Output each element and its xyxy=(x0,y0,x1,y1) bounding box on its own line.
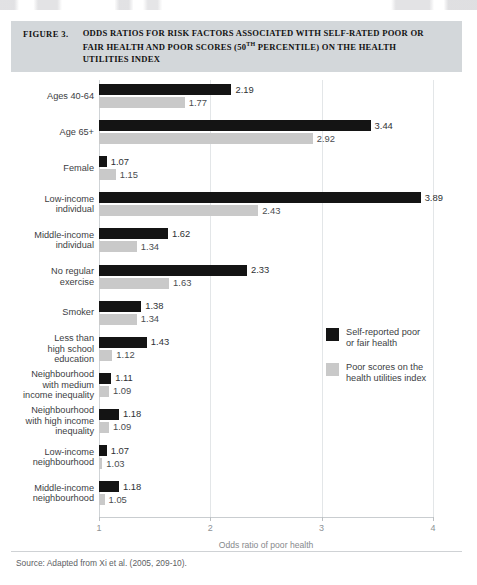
bar-poor-scores xyxy=(99,458,102,469)
category-label: Neighbourhoodwith high incomeinequality xyxy=(0,405,94,436)
bar-value-label: 1.11 xyxy=(115,372,133,383)
bar-value-label: 1.05 xyxy=(109,494,127,505)
bar-value-label: 1.62 xyxy=(172,228,190,239)
category-label-line: No regular xyxy=(0,266,94,276)
bar-group: Ages 40-642.191.77 xyxy=(0,84,477,108)
category-label-line: Smoker xyxy=(0,307,94,317)
bar-value-label: 2.19 xyxy=(235,84,253,95)
x-axis-line xyxy=(99,517,433,518)
category-label-line: individual xyxy=(0,240,94,250)
scan-artifact-strip xyxy=(0,0,477,10)
category-label-line: inequality xyxy=(0,426,94,436)
category-label-line: high school xyxy=(0,344,94,354)
legend-swatch-light-icon xyxy=(326,363,339,376)
bar-poor-scores xyxy=(99,350,112,361)
x-tick-mark xyxy=(322,517,323,521)
bar-value-label: 1.03 xyxy=(106,458,124,469)
category-label-line: Low-income xyxy=(0,447,94,457)
category-label: Smoker xyxy=(0,307,94,317)
bar-value-label: 1.63 xyxy=(173,277,191,288)
legend-label-line: Poor scores on the xyxy=(346,362,426,373)
category-label: Low-incomeneighbourhood xyxy=(0,447,94,468)
bar-group: Low-incomeneighbourhood1.071.03 xyxy=(0,445,477,469)
chart-plot-area: 1234 Odds ratio of poor health Ages 40-6… xyxy=(0,80,477,545)
category-label-line: income inequality xyxy=(0,390,94,400)
category-label: Less thanhigh schooleducation xyxy=(0,333,94,364)
bar-self-reported xyxy=(99,84,231,95)
bar-self-reported xyxy=(99,228,168,239)
figure-title-line-3: UTILITIES INDEX xyxy=(83,54,161,64)
bar-poor-scores xyxy=(99,205,258,216)
bar-self-reported xyxy=(99,373,111,384)
category-label-line: Middle-income xyxy=(0,483,94,493)
category-label-line: Neighbourhood xyxy=(0,369,94,379)
legend-item-poor-scores: Poor scores on the health utilities inde… xyxy=(326,362,471,384)
category-label-line: with medium xyxy=(0,380,94,390)
category-label-line: exercise xyxy=(0,277,94,287)
bar-poor-scores xyxy=(99,422,109,433)
bar-value-label: 1.07 xyxy=(111,156,129,167)
bar-self-reported xyxy=(99,481,119,492)
bar-group: Female1.071.15 xyxy=(0,156,477,180)
bar-poor-scores xyxy=(99,241,137,252)
bar-poor-scores xyxy=(99,169,116,180)
bar-value-label: 1.12 xyxy=(116,349,134,360)
category-label-line: Neighbourhood xyxy=(0,405,94,415)
bar-poor-scores xyxy=(99,494,105,505)
bar-value-label: 1.43 xyxy=(151,336,169,347)
bar-self-reported xyxy=(99,409,119,420)
bar-value-label: 1.09 xyxy=(113,421,131,432)
x-tick-label: 3 xyxy=(319,523,324,533)
category-label: Age 65+ xyxy=(0,127,94,137)
bar-group: Middle-incomeindividual1.621.34 xyxy=(0,228,477,252)
legend-swatch-dark-icon xyxy=(326,328,339,341)
category-label: No regularexercise xyxy=(0,266,94,287)
category-label: Middle-incomeneighbourhood xyxy=(0,483,94,504)
category-label-line: Middle-income xyxy=(0,230,94,240)
category-label: Low-incomeindividual xyxy=(0,194,94,215)
figure-number: FIGURE 3. xyxy=(23,28,69,39)
bar-poor-scores xyxy=(99,97,185,108)
bar-self-reported xyxy=(99,301,141,312)
bar-self-reported xyxy=(99,192,421,203)
x-tick-label: 2 xyxy=(208,523,213,533)
bar-poor-scores xyxy=(99,386,109,397)
source-note: Source: Adapted from Xi et al. (2005, 20… xyxy=(16,558,187,568)
category-label-line: with high income xyxy=(0,416,94,426)
category-label-line: neighbourhood xyxy=(0,457,94,467)
category-label: Middle-incomeindividual xyxy=(0,230,94,251)
category-label-line: Ages 40-64 xyxy=(0,91,94,101)
category-label: Neighbourhoodwith mediumincome inequalit… xyxy=(0,369,94,400)
legend-item-self-reported: Self-reported poor or fair health xyxy=(326,327,471,349)
bar-value-label: 1.18 xyxy=(123,408,141,419)
figure-title: ODDS RATIOS FOR RISK FACTORS ASSOCIATED … xyxy=(83,28,428,65)
legend-label-line: health utilities index xyxy=(346,373,426,384)
bar-value-label: 1.09 xyxy=(113,385,131,396)
figure-title-band: FIGURE 3. ODDS RATIOS FOR RISK FACTORS A… xyxy=(11,21,462,72)
bar-group: Smoker1.381.34 xyxy=(0,301,477,325)
figure-title-line-1: ODDS RATIOS FOR RISK FACTORS ASSOCIATED … xyxy=(83,28,408,38)
source-divider xyxy=(11,551,462,552)
bar-group: Low-incomeindividual3.892.43 xyxy=(0,192,477,216)
bar-value-label: 2.92 xyxy=(317,133,335,144)
category-label-line: Low-income xyxy=(0,194,94,204)
bar-value-label: 1.18 xyxy=(123,481,141,492)
legend-label-poor-scores: Poor scores on the health utilities inde… xyxy=(346,362,426,384)
category-label: Female xyxy=(0,163,94,173)
category-label-line: Age 65+ xyxy=(0,127,94,137)
x-tick-mark xyxy=(433,517,434,521)
bar-poor-scores xyxy=(99,133,313,144)
bar-value-label: 1.34 xyxy=(141,241,159,252)
x-tick-label: 4 xyxy=(430,523,435,533)
category-label-line: Female xyxy=(0,163,94,173)
bar-self-reported xyxy=(99,120,371,131)
bar-self-reported xyxy=(99,337,147,348)
bar-self-reported xyxy=(99,265,247,276)
bar-poor-scores xyxy=(99,278,169,289)
x-tick-label: 1 xyxy=(96,523,101,533)
x-tick-mark xyxy=(210,517,211,521)
bar-self-reported xyxy=(99,445,107,456)
bar-group: Age 65+3.442.92 xyxy=(0,120,477,144)
legend-label-self-reported: Self-reported poor or fair health xyxy=(346,327,420,349)
legend-label-line: Self-reported poor xyxy=(346,327,420,338)
